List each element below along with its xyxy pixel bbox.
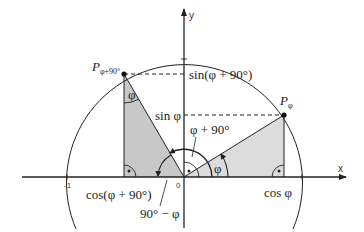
origin-label: 0	[176, 181, 181, 190]
label-cos-phi: cos φ	[264, 185, 292, 200]
label-angle-phi-origin: φ	[214, 161, 222, 176]
unit-circle-diagram: y x 0 -1 Pφ+90° Pφ sin(φ + 90°) sin φ co…	[0, 0, 364, 232]
leader-phi-plus-90	[192, 137, 196, 157]
label-sin-phi90: sin(φ + 90°)	[189, 67, 252, 82]
y-axis-label: y	[189, 10, 194, 21]
label-cos-phi90: cos(φ + 90°)	[86, 187, 152, 202]
label-angle-phi-plus-90: φ + 90°	[190, 122, 230, 137]
point-p-phi	[281, 112, 286, 117]
right-angle-dot-p-phi90	[128, 170, 131, 173]
point-p-phi90	[121, 71, 126, 76]
right-angle-dot-origin	[188, 170, 191, 173]
label-angle-90-minus-phi: 90° − φ	[140, 206, 180, 221]
label-p-phi: Pφ	[279, 93, 293, 110]
x-axis-label: x	[338, 163, 343, 174]
label-sin-phi: sin φ	[155, 108, 181, 123]
right-angle-dot-p-phi	[278, 170, 281, 173]
label-angle-phi-triangle: φ	[128, 87, 136, 102]
neg-one-label: -1	[64, 181, 72, 190]
label-p-phi90: Pφ+90°	[91, 59, 120, 76]
leader-90-minus-phi	[160, 180, 167, 206]
